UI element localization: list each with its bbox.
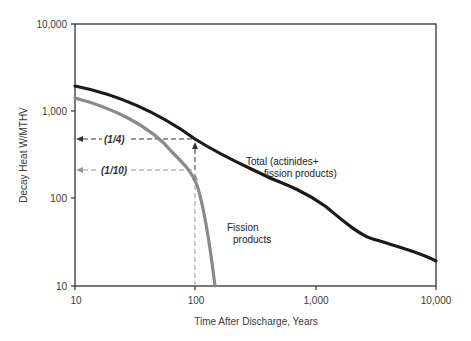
decay-heat-chart: 10,000 1,000 100 10 10 100 1,000 10,000 … [0,0,471,341]
fission-curve-label-line1: Fission [227,222,259,233]
x-tick-label: 10 [70,295,82,306]
total-curve-label-line1: Total (actinides+ [246,156,319,167]
plot-frame [75,24,436,286]
y-tick-label: 1,000 [42,106,67,117]
total-curve-label-line2: fission products) [264,168,337,179]
x-axis-title: Time After Discharge, Years [194,316,318,327]
fission-curve-label-line2: products [233,234,271,245]
y-tick-label: 10 [56,281,68,292]
y-axis-title: Decay Heat W/MTHV [18,107,29,203]
y-tick-label: 100 [50,193,67,204]
fission-products-curve [75,98,215,286]
tenth-ratio-label: (1/10) [101,165,128,176]
x-tick-label: 100 [188,295,205,306]
y-tick-label: 10,000 [36,19,67,30]
x-tick-label: 10,000 [421,295,452,306]
quarter-ratio-label: (1/4) [104,134,125,145]
x-tick-label: 1,000 [303,295,328,306]
